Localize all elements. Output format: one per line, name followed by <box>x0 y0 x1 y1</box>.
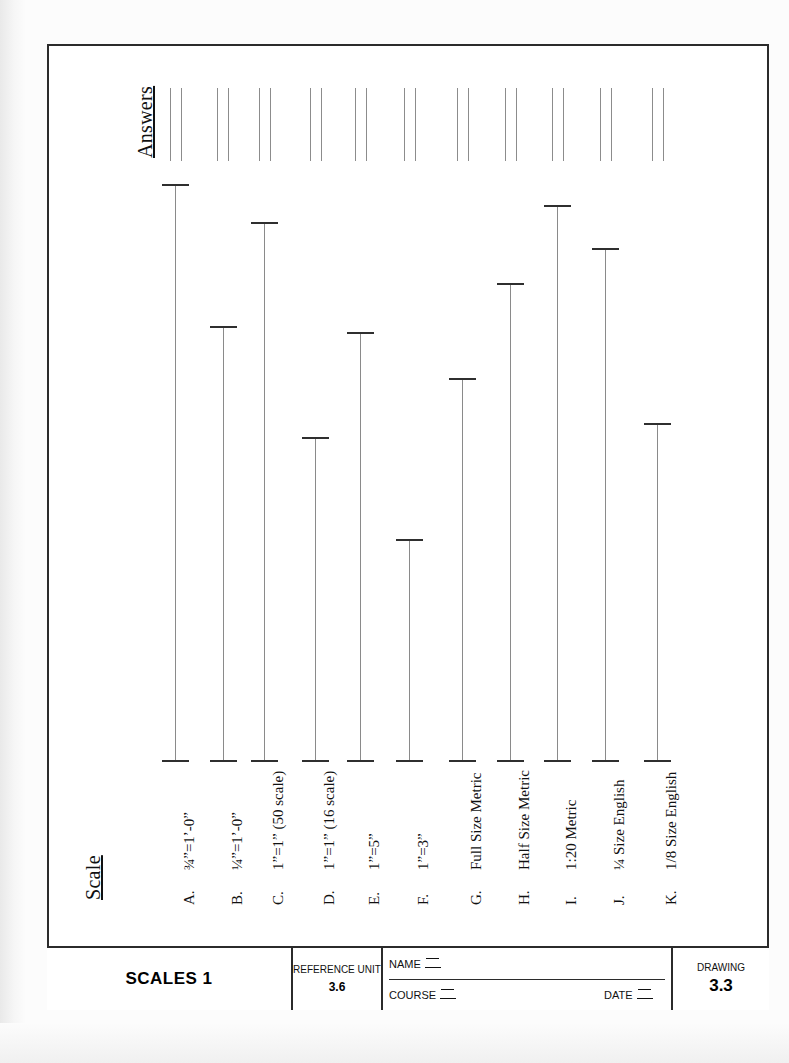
name-field-row: NAME <box>389 948 665 980</box>
scale-row-letter-e: E. <box>366 892 383 905</box>
measurement-line-top-cap <box>644 423 671 425</box>
measurement-line-bottom-cap <box>396 760 423 762</box>
scale-row-name-k: 1/8 Size English <box>663 772 680 870</box>
scale-row-name-h: Half Size Metric <box>516 770 533 870</box>
name-field[interactable]: NAME <box>389 958 439 970</box>
answer-blank-line <box>468 88 469 161</box>
answer-blank-line <box>270 88 271 161</box>
page-bottom-shadow <box>0 1023 789 1063</box>
answer-blank-line <box>366 88 367 161</box>
measurement-line-top-cap <box>449 378 476 380</box>
reference-unit-value: 3.6 <box>329 980 346 994</box>
answer-blank-line <box>457 88 458 161</box>
answer-blank-line <box>600 88 601 161</box>
scale-row-letter-j: J. <box>611 895 628 905</box>
title-block: SCALES 1 REFERENCE UNIT 3.6 NAME COURSE … <box>47 946 769 1010</box>
scale-row-letter-g: G. <box>468 890 485 905</box>
answer-blank[interactable] <box>457 88 470 161</box>
answer-blank-line <box>355 88 356 161</box>
answer-blank[interactable] <box>170 88 183 161</box>
answer-blank-line <box>259 88 260 161</box>
measurement-line-top-cap <box>544 205 571 207</box>
answer-blank-line <box>552 88 553 161</box>
course-label: COURSE <box>389 989 436 1001</box>
answer-blank-line <box>505 88 506 161</box>
scale-row-name-i: 1:20 Metric <box>563 800 580 870</box>
measurement-line <box>315 437 316 760</box>
measurement-line <box>360 332 361 760</box>
date-label: DATE <box>604 989 633 1001</box>
measurement-line-bottom-cap <box>449 760 476 762</box>
answer-blank[interactable] <box>552 88 565 161</box>
answer-blank-line <box>310 88 311 161</box>
scale-row-name-f: 1”=3” <box>415 833 432 870</box>
drawing-number-label: DRAWING <box>697 962 745 973</box>
course-tick-mark <box>441 989 454 990</box>
scale-row-name-d: 1”=1” (16 scale) <box>321 771 338 870</box>
title-block-drawing-cell: DRAWING 3.3 <box>673 948 769 1010</box>
measurement-line-top-cap <box>347 332 374 334</box>
drawing-sheet-border <box>47 44 769 1010</box>
measurement-line <box>223 326 224 760</box>
measurement-line <box>605 248 606 760</box>
answer-blank[interactable] <box>600 88 613 161</box>
drawing-title: SCALES 1 <box>125 969 212 989</box>
answer-blank-line <box>563 88 564 161</box>
course-field[interactable]: COURSE <box>389 989 454 1001</box>
measurement-line-bottom-cap <box>544 760 571 762</box>
measurement-line <box>264 222 265 760</box>
title-block-title-cell: SCALES 1 <box>47 948 293 1010</box>
answer-blank-line <box>652 88 653 161</box>
answer-blank[interactable] <box>652 88 665 161</box>
date-tick-mark <box>638 989 651 990</box>
scale-row-letter-a: A. <box>181 890 198 905</box>
measurement-line-top-cap <box>162 184 189 186</box>
scale-row-letter-i: I. <box>563 896 580 905</box>
measurement-line-bottom-cap <box>592 760 619 762</box>
measurement-line <box>175 184 176 760</box>
title-block-fields-cell: NAME COURSE DATE <box>383 948 673 1010</box>
name-blank[interactable] <box>425 958 441 968</box>
scale-row-letter-b: B. <box>229 891 246 905</box>
answer-blank-line <box>181 88 182 161</box>
answer-blank-line <box>170 88 171 161</box>
scale-row-letter-d: D. <box>321 890 338 905</box>
answer-blank[interactable] <box>217 88 230 161</box>
scale-row-letter-k: K. <box>663 890 680 905</box>
scale-row-letter-c: C. <box>270 891 287 905</box>
drawing-number-value: 3.3 <box>709 976 733 996</box>
scale-row-name-a: ¾”=1’-0” <box>181 812 198 870</box>
scale-row-name-j: ¼ Size English <box>611 780 628 870</box>
measurement-line-bottom-cap <box>251 760 278 762</box>
scale-row-letter-h: H. <box>516 890 533 905</box>
course-blank[interactable] <box>440 989 456 999</box>
answer-blank[interactable] <box>355 88 368 161</box>
answer-blank[interactable] <box>310 88 323 161</box>
measurement-line-bottom-cap <box>302 760 329 762</box>
answer-blank[interactable] <box>505 88 518 161</box>
date-blank[interactable] <box>637 989 653 999</box>
answer-blank[interactable] <box>259 88 272 161</box>
measurement-line-top-cap <box>396 539 423 541</box>
answer-blank-line <box>404 88 405 161</box>
answer-blank[interactable] <box>404 88 417 161</box>
reference-unit-label: REFERENCE UNIT <box>293 964 381 975</box>
measurement-line <box>510 283 511 760</box>
measurement-line <box>557 205 558 760</box>
scale-row-letter-f: F. <box>415 894 432 905</box>
answer-blank-line <box>516 88 517 161</box>
measurement-line-bottom-cap <box>210 760 237 762</box>
course-date-field-row: COURSE DATE <box>389 979 665 1010</box>
measurement-line-bottom-cap <box>347 760 374 762</box>
answers-heading: Answers <box>134 86 157 158</box>
measurement-line <box>657 423 658 760</box>
answer-blank-line <box>228 88 229 161</box>
answer-blank-line <box>611 88 612 161</box>
page-left-shadow <box>0 0 26 1063</box>
scale-row-name-c: 1”=1” (50 scale) <box>270 771 287 870</box>
measurement-line-top-cap <box>302 437 329 439</box>
measurement-line-top-cap <box>592 248 619 250</box>
date-field[interactable]: DATE <box>604 989 651 1001</box>
measurement-line-top-cap <box>210 326 237 328</box>
answer-blank-line <box>415 88 416 161</box>
